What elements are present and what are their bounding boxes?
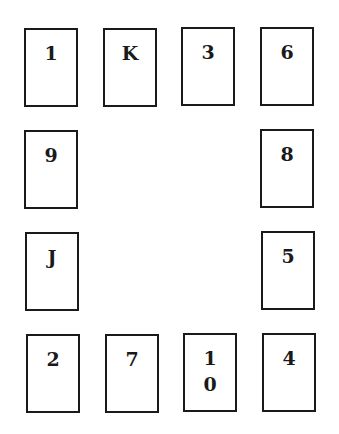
card-10: 1 0: [183, 333, 237, 412]
card-label: K: [105, 40, 155, 66]
card-label: 2: [28, 346, 78, 372]
card-king: K: [103, 28, 157, 107]
card-label: 9: [26, 142, 76, 168]
card-label: 1: [26, 40, 76, 66]
card-4: 4: [262, 333, 316, 412]
card-5: 5: [261, 231, 315, 310]
card-label: J: [27, 244, 77, 270]
card-1: 1: [24, 28, 78, 107]
card-3: 3: [181, 27, 235, 106]
card-6: 6: [260, 27, 314, 106]
card-jack: J: [25, 232, 79, 311]
card-label: 8: [262, 141, 312, 167]
card-label: 7: [107, 346, 157, 372]
card-2: 2: [26, 334, 80, 413]
card-label: 4: [264, 345, 314, 371]
card-label: 6: [262, 39, 312, 65]
card-7: 7: [105, 334, 159, 413]
card-9: 9: [24, 130, 78, 209]
card-label: 1 0: [185, 345, 235, 397]
card-label: 5: [263, 243, 313, 269]
card-label: 3: [183, 39, 233, 65]
card-8: 8: [260, 129, 314, 208]
